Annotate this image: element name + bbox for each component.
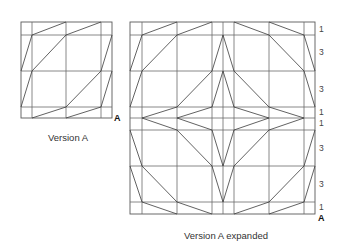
version-a-caption: Version A [48,132,88,143]
row-ratio-label: 3 [319,179,324,189]
row-ratio-label: 1 [319,24,324,34]
expanded-corner-label: A [318,213,325,223]
expanded-grid [130,22,315,214]
row-ratio-label: 1 [319,107,324,117]
row-ratio-label: 3 [319,47,324,57]
version-a-expanded-block [130,22,315,214]
row-ratio-label: 3 [319,143,324,153]
expanded-caption: Version A expanded [184,230,268,241]
row-ratio-label: 1 [319,118,324,128]
version-a-grid [21,22,112,118]
diagram-canvas [0,0,342,246]
row-ratio-label: 3 [319,84,324,94]
version-a-block [21,22,112,118]
row-ratio-label: 1 [319,202,324,212]
version-a-border [21,22,112,118]
version-a-corner-label: A [114,113,121,123]
version-a-diagonals [21,22,112,118]
